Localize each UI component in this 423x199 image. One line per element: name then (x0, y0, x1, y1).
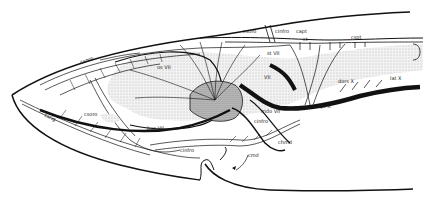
label-spt-ix: spt IX (294, 105, 308, 110)
label-lat-x: lat X (390, 76, 401, 81)
label-capt: capt (296, 29, 307, 34)
label-cspt: cspt (351, 35, 362, 40)
label-spt-x: spt X (318, 104, 331, 109)
head-section-drawing (0, 0, 423, 199)
label-chmd: chmd (278, 140, 292, 145)
label-cinfro-mid: cinfro (254, 119, 268, 124)
label-buc-vii: buc VII (147, 126, 164, 131)
label-cinfro-dorsal: cinfro (275, 29, 289, 34)
anatomical-figure: csoro csoro cinfro capt ct cspt os VII s… (0, 0, 423, 199)
label-dors-x: dors X (338, 79, 354, 84)
label-cinfro-lower: cinfro (180, 148, 194, 153)
label-csoro-dorsal: csoro (243, 29, 256, 34)
label-vii: VII (264, 75, 270, 80)
label-st-vii: st VII (267, 51, 280, 56)
label-csoro-lower: csoro (84, 112, 97, 117)
jaw-outline (205, 164, 413, 191)
nerve-ganglion (190, 81, 243, 121)
label-mdo-vii: mdo VII (261, 109, 280, 114)
label-os-vii: os VII (157, 65, 171, 70)
label-ct: ct (303, 37, 308, 42)
label-cmd: cmd (248, 153, 259, 158)
figure-caption (25, 193, 405, 197)
